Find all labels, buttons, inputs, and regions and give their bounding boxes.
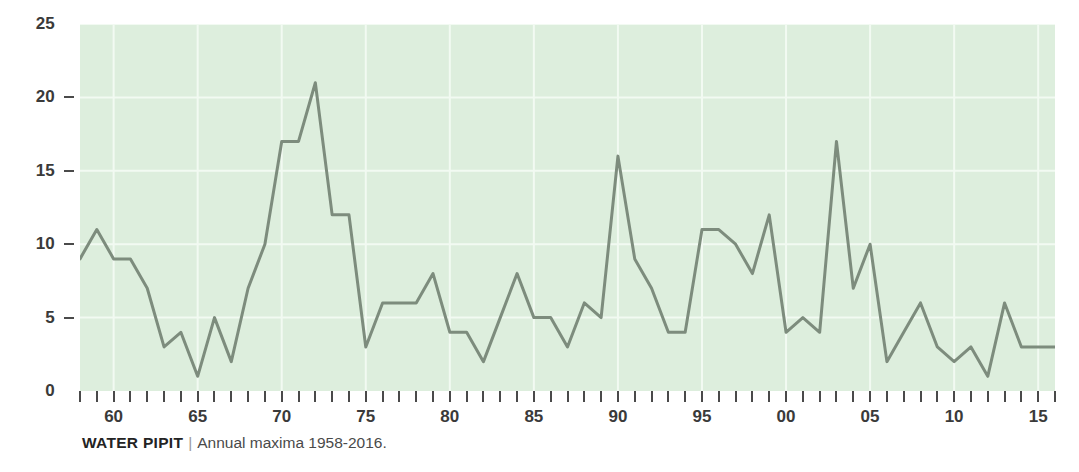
x-axis-tick-mark [113,391,115,402]
y-axis: 0510152025 [0,0,80,400]
x-axis-tick-mark [684,391,686,402]
y-axis-tick-mark [64,243,74,245]
chart-figure: 0510152025 606570758085909500051015 WATE… [0,0,1079,472]
x-axis-tick-mark [1020,391,1022,402]
x-axis-tick-label: 95 [693,407,712,427]
x-axis-tick-label: 15 [1029,407,1048,427]
y-axis-tick: 10 [36,235,80,253]
x-axis-tick-mark [96,391,98,402]
x-axis-tick-mark [264,391,266,402]
x-axis-tick-mark [1054,391,1056,402]
x-axis-tick-mark [197,391,199,402]
x-axis-tick-mark [382,391,384,402]
x-axis-tick-mark [651,391,653,402]
y-axis-tick: 20 [36,88,80,106]
x-axis-tick-mark [79,391,81,402]
x-axis-tick-mark [567,391,569,402]
x-axis-tick-mark [331,391,333,402]
line-chart-svg [80,24,1055,391]
y-axis-tick: 15 [36,162,80,180]
y-axis-tick-mark [64,23,74,25]
x-axis-tick-mark [835,391,837,402]
x-axis-tick-label: 75 [356,407,375,427]
y-axis-tick-mark [64,96,74,98]
y-axis-tick: 25 [36,15,80,33]
x-axis-tick-mark [466,391,468,402]
y-axis-tick-mark [64,170,74,172]
x-axis-tick-label: 05 [861,407,880,427]
x-axis-tick-mark [533,391,535,402]
y-axis-tick-label: 5 [45,309,55,327]
x-axis-tick-mark [482,391,484,402]
x-axis-tick-mark [634,391,636,402]
x-axis-tick-mark [449,391,451,402]
y-axis-tick-label: 15 [36,162,55,180]
x-axis-tick-mark [819,391,821,402]
x-axis-tick-mark [869,391,871,402]
x-axis-tick-mark [785,391,787,402]
caption-separator: | [188,434,192,451]
x-axis-tick-mark [499,391,501,402]
x-axis-tick-mark [936,391,938,402]
y-axis-tick-label: 0 [45,382,55,400]
x-axis-tick-mark [516,391,518,402]
x-axis-tick-mark [298,391,300,402]
x-axis-tick-mark [903,391,905,402]
y-axis-tick-label: 20 [36,88,55,106]
x-axis-tick-mark [550,391,552,402]
x-axis-tick-label: 60 [104,407,123,427]
x-axis-tick-mark [701,391,703,402]
x-axis-tick-mark [768,391,770,402]
x-axis-tick-mark [230,391,232,402]
x-axis-tick-mark [281,391,283,402]
x-axis-tick-label: 80 [440,407,459,427]
x-axis-tick-mark [432,391,434,402]
x-axis-tick-mark [718,391,720,402]
x-axis-tick-mark [953,391,955,402]
x-axis-tick-label: 10 [945,407,964,427]
x-axis-tick-mark [600,391,602,402]
x-axis-tick-label: 85 [524,407,543,427]
x-axis-tick-label: 70 [272,407,291,427]
gridlines [80,24,1055,391]
x-axis-tick-label: 90 [608,407,627,427]
x-axis-tick-mark [415,391,417,402]
y-axis-tick-label: 25 [36,15,55,33]
x-axis-tick-mark [583,391,585,402]
x-axis-tick-mark [735,391,737,402]
y-axis-tick: 5 [45,309,80,327]
y-axis-tick: 0 [45,382,80,400]
data-series-line [80,83,1055,377]
x-axis: 606570758085909500051015 [80,391,1055,431]
caption-title: WATER PIPIT [82,434,183,451]
x-axis-tick-mark [180,391,182,402]
x-axis-tick-mark [1037,391,1039,402]
y-axis-tick-mark [64,317,74,319]
x-axis-tick-mark [920,391,922,402]
x-axis-tick-mark [163,391,165,402]
x-axis-tick-label: 65 [188,407,207,427]
x-axis-tick-mark [129,391,131,402]
y-axis-tick-label: 10 [36,235,55,253]
y-axis-tick-mark [64,390,74,392]
plot-area [80,24,1055,391]
x-axis-tick-mark [314,391,316,402]
x-axis-tick-mark [398,391,400,402]
x-axis-tick-mark [1004,391,1006,402]
caption-subtitle: Annual maxima 1958-2016. [197,434,387,451]
x-axis-tick-mark [213,391,215,402]
x-axis-tick-mark [852,391,854,402]
x-axis-tick-mark [987,391,989,402]
x-axis-tick-mark [146,391,148,402]
x-axis-tick-mark [247,391,249,402]
x-axis-tick-mark [751,391,753,402]
x-axis-tick-label: 00 [777,407,796,427]
x-axis-tick-mark [365,391,367,402]
x-axis-tick-mark [617,391,619,402]
chart-caption: WATER PIPIT|Annual maxima 1958-2016. [82,434,387,452]
x-axis-tick-mark [802,391,804,402]
x-axis-tick-mark [667,391,669,402]
x-axis-tick-mark [348,391,350,402]
x-axis-tick-mark [886,391,888,402]
x-axis-tick-mark [970,391,972,402]
